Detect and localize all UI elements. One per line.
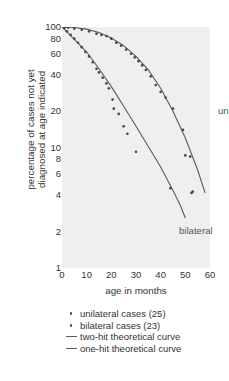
data-point — [130, 52, 133, 55]
data-point — [159, 90, 162, 93]
data-point — [95, 67, 98, 70]
x-tick-label: 40 — [151, 270, 171, 280]
legend-item: unilateral cases (25) — [62, 308, 181, 320]
data-point — [91, 61, 94, 64]
y-tick-label: 100 — [45, 22, 61, 32]
figure: unilateral bilateral 100806040201086421 … — [0, 0, 229, 381]
y-tick-label: 8 — [56, 154, 61, 164]
x-tick-label: 60 — [200, 270, 220, 280]
legend-label: two-hit theoretical curve — [80, 331, 180, 343]
y-tick-label: 20 — [50, 106, 61, 116]
data-point — [115, 41, 118, 44]
data-point — [110, 37, 113, 40]
theoretical-curve — [62, 27, 185, 218]
data-point — [190, 192, 193, 195]
theoretical-curve — [62, 27, 205, 193]
data-point — [125, 48, 128, 51]
x-tick-label: 0 — [52, 270, 72, 280]
data-point — [154, 84, 157, 87]
legend-key — [62, 348, 80, 349]
data-point — [182, 129, 185, 132]
x-axis-label: age in months — [62, 285, 210, 296]
data-point — [88, 30, 91, 33]
legend-dot-marker — [70, 324, 73, 327]
legend-key — [62, 336, 80, 337]
data-point — [105, 82, 108, 85]
data-point — [122, 125, 125, 128]
data-point — [111, 98, 114, 101]
data-point — [184, 154, 187, 157]
data-point — [108, 87, 111, 90]
data-point — [98, 71, 101, 74]
y-tick-label: 80 — [50, 34, 61, 44]
data-point — [141, 64, 144, 67]
data-point — [164, 96, 167, 99]
x-tick-label: 20 — [101, 270, 121, 280]
legend-key — [62, 312, 80, 315]
legend-item: two-hit theoretical curve — [62, 331, 181, 343]
y-tick-label: 4 — [56, 190, 61, 200]
legend-label: bilateral cases (23) — [80, 320, 160, 332]
data-point — [80, 28, 83, 31]
y-tick-label: 40 — [50, 70, 61, 80]
x-tick-label: 50 — [175, 270, 195, 280]
data-point — [105, 35, 108, 38]
y-tick-label: 2 — [56, 227, 61, 237]
x-tick-label: 10 — [77, 270, 97, 280]
data-point — [137, 60, 140, 63]
series-annotation-unilateral: unilateral — [218, 105, 229, 116]
curve-group — [62, 27, 205, 218]
data-point — [133, 56, 136, 59]
data-point — [117, 113, 120, 116]
x-tick-label: 30 — [126, 270, 146, 280]
data-point — [73, 37, 76, 40]
legend: unilateral cases (25)bilateral cases (23… — [62, 308, 181, 354]
legend-key — [62, 324, 80, 327]
data-point — [149, 75, 152, 78]
legend-line-marker — [66, 336, 77, 337]
legend-item: one-hit theoretical curve — [62, 343, 181, 355]
y-axis-label-line2: diagnosed at age indicated — [36, 71, 47, 188]
legend-label: one-hit theoretical curve — [80, 343, 181, 355]
data-point — [88, 55, 91, 58]
y-tick-label: 10 — [50, 143, 61, 153]
data-point — [66, 30, 69, 33]
data-point — [126, 132, 129, 135]
legend-item: bilateral cases (23) — [62, 320, 181, 332]
data-point — [112, 107, 115, 110]
y-axis-label-line1: percentage of cases not yet — [25, 69, 36, 189]
y-tick-label: 6 — [56, 169, 61, 179]
data-point — [80, 46, 83, 49]
data-point — [172, 107, 175, 110]
data-point — [169, 187, 172, 190]
plot-area: unilateral bilateral — [62, 27, 210, 268]
legend-label: unilateral cases (25) — [80, 308, 166, 320]
marker-group — [63, 27, 194, 194]
legend-line-marker — [66, 348, 77, 349]
data-point — [67, 27, 70, 29]
data-point — [145, 69, 148, 72]
data-point — [69, 34, 72, 37]
data-point — [73, 27, 76, 30]
data-point — [189, 155, 192, 158]
y-axis-label: percentage of cases not yet diagnosed at… — [25, 29, 48, 229]
data-point — [100, 34, 103, 37]
y-tick-label: 60 — [50, 49, 61, 59]
legend-dot-marker — [70, 312, 73, 315]
data-point — [95, 32, 98, 35]
data-point — [135, 151, 138, 154]
data-point — [101, 76, 104, 79]
data-point — [77, 41, 80, 44]
data-point — [120, 44, 123, 47]
data-point — [84, 51, 87, 54]
series-annotation-bilateral: bilateral — [179, 225, 213, 236]
